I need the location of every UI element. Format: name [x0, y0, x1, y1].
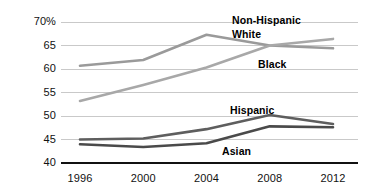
x-axis-tick-label: 2008: [242, 172, 298, 184]
line-chart: 40455055606570%19962000200420082012Non-H…: [0, 0, 366, 195]
x-axis-tick-label: 2004: [179, 172, 235, 184]
y-axis-tick-label: 55: [12, 86, 56, 98]
y-axis-tick-label: 40: [12, 156, 56, 168]
y-axis-tick-label: 45: [12, 133, 56, 145]
series-annotation-white: White: [232, 28, 261, 40]
x-axis-tick-label: 2000: [115, 172, 171, 184]
y-axis-tick-label: 50: [12, 109, 56, 121]
series-line-black: [80, 39, 333, 101]
y-axis-tick-label: 60: [12, 62, 56, 74]
series-annotation-asian: Asian: [222, 145, 251, 157]
series-annotation-black: Black: [258, 58, 287, 70]
x-axis-tick-label: 2012: [305, 172, 361, 184]
series-annotation-hispanic: Hispanic: [230, 104, 275, 116]
series-line-non-hispanic-white: [80, 35, 333, 66]
series-annotation-non-hispanic: Non-Hispanic: [232, 14, 301, 26]
y-axis-tick-label: 70%: [12, 15, 56, 27]
y-axis-tick-label: 65: [12, 39, 56, 51]
x-axis-tick-label: 1996: [52, 172, 108, 184]
